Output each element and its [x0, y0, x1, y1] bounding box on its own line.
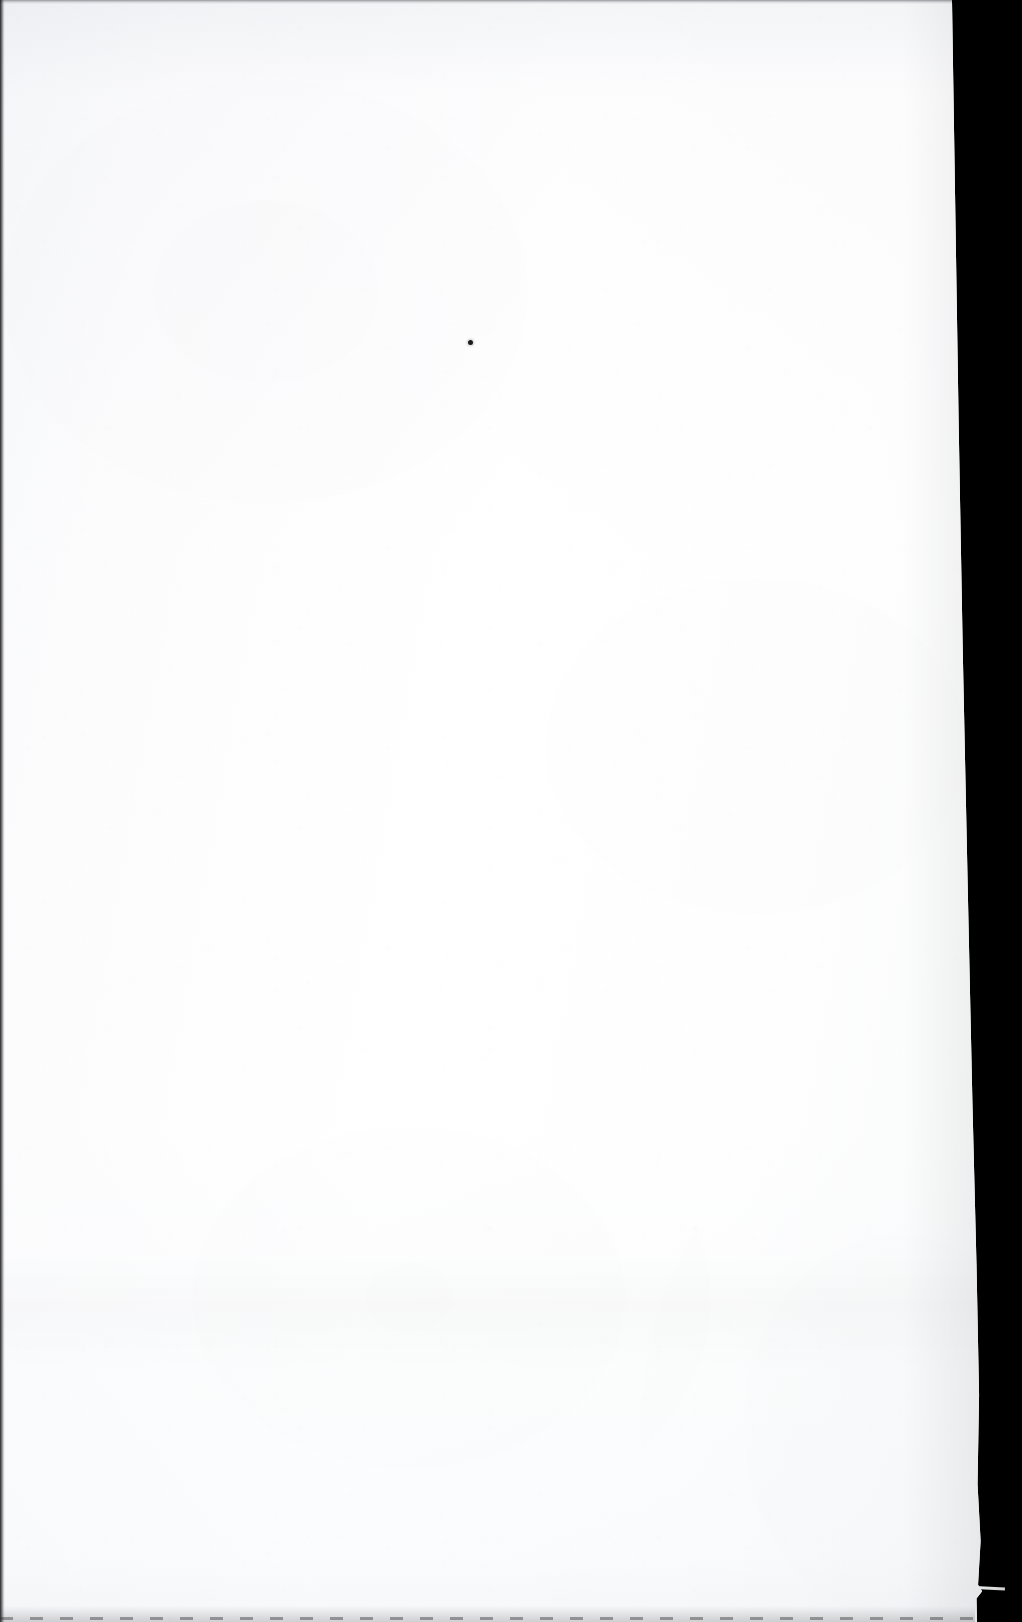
top-edge-line	[0, 0, 952, 4]
paper-sheet	[0, 0, 1022, 1622]
scanned-page-root	[0, 0, 1022, 1622]
left-edge-line	[0, 0, 5, 1622]
paper-grain-texture	[0, 0, 1022, 1622]
bottom-edge-dotted-line	[0, 1617, 975, 1620]
ink-speck-mark	[468, 340, 473, 345]
paper-crease	[0, 1255, 980, 1375]
